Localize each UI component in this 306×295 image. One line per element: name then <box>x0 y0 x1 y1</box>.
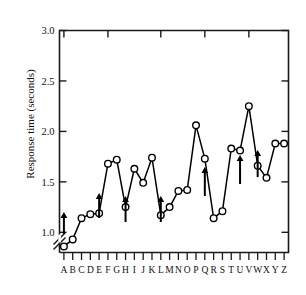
x-axis-tick-label: L <box>158 265 164 275</box>
x-axis-tick-label: N <box>175 265 182 275</box>
x-axis-tick-label: D <box>87 265 94 275</box>
x-axis-tick-label: H <box>122 265 129 275</box>
annotation-arrow <box>201 167 208 196</box>
data-point-marker <box>237 147 244 154</box>
x-axis-tick-label: M <box>165 265 174 275</box>
data-point-marker <box>166 204 173 211</box>
x-axis-tick-label: A <box>60 265 67 275</box>
x-axis-tick-label: W <box>253 265 262 275</box>
y-axis-tick-labels: 1.01.52.02.53.0 <box>41 25 54 238</box>
data-markers <box>61 103 288 250</box>
data-point-marker <box>202 155 209 162</box>
y-axis-tick-label: 1.5 <box>41 177 54 188</box>
x-axis-tick-label: X <box>263 265 270 275</box>
y-axis-tick-label: 1.0 <box>41 227 54 238</box>
chart-svg: 1.01.52.02.53.0 ABCDEFGHIJKLMNOPQRSTUVWX… <box>0 0 306 295</box>
top-axis-ticks <box>64 31 249 38</box>
x-axis-tick-label: T <box>228 265 234 275</box>
x-axis-tick-label: S <box>220 265 225 275</box>
data-point-marker <box>61 243 68 250</box>
x-axis-tick-label: E <box>96 265 102 275</box>
data-point-marker <box>228 145 235 152</box>
x-axis-tick-label: O <box>184 265 191 275</box>
data-point-marker <box>140 180 147 187</box>
right-axis-ticks <box>282 31 289 233</box>
x-axis-tick-label: R <box>210 265 217 275</box>
data-point-marker <box>149 154 156 161</box>
annotation-arrow <box>237 155 244 184</box>
x-axis-tick-label: K <box>149 265 156 275</box>
data-point-marker <box>69 236 76 243</box>
data-point-marker <box>131 165 138 172</box>
data-point-marker <box>263 175 270 182</box>
annotation-arrows <box>61 150 262 234</box>
data-point-marker <box>105 160 112 167</box>
plot-canvas: 1.01.52.02.53.0 ABCDEFGHIJKLMNOPQRSTUVWX… <box>0 0 306 295</box>
data-point-marker <box>193 122 200 129</box>
data-point-marker <box>78 215 85 222</box>
data-point-marker <box>184 187 191 194</box>
y-axis-tick-label: 2.5 <box>41 76 54 87</box>
x-axis-tick-label: I <box>133 265 136 275</box>
data-line <box>64 106 284 246</box>
y-axis-tick-label: 2.0 <box>41 126 54 137</box>
data-point-marker <box>87 211 94 218</box>
data-point-marker <box>272 140 279 147</box>
x-axis-tick-label: C <box>78 265 84 275</box>
x-axis-tick-label: B <box>70 265 76 275</box>
x-axis-tick-label: F <box>105 265 110 275</box>
chart-figure: Response time (seconds) 1.01.52.02.53.0 … <box>0 0 306 295</box>
annotation-arrow <box>61 212 68 234</box>
data-point-marker <box>219 208 226 215</box>
x-axis-tick-label: Y <box>272 265 279 275</box>
data-point-marker <box>175 188 182 195</box>
data-point-marker <box>113 156 120 163</box>
data-point-marker <box>210 215 217 222</box>
x-axis-tick-label: V <box>245 265 252 275</box>
x-axis-tick-label: G <box>113 265 120 275</box>
x-axis-tick-labels: ABCDEFGHIJKLMNOPQRSTUVWXYZ <box>60 265 287 275</box>
x-axis-tick-label: P <box>193 265 198 275</box>
x-axis-tick-label: Q <box>201 265 208 275</box>
data-point-marker <box>281 140 288 147</box>
x-axis-ticks <box>64 253 284 261</box>
y-axis-tick-label: 3.0 <box>41 25 54 36</box>
x-axis-tick-label: Z <box>281 265 287 275</box>
x-axis-tick-label: J <box>141 265 145 275</box>
x-axis-tick-label: U <box>237 265 244 275</box>
data-point-marker <box>246 103 253 110</box>
y-axis-ticks <box>60 31 67 233</box>
